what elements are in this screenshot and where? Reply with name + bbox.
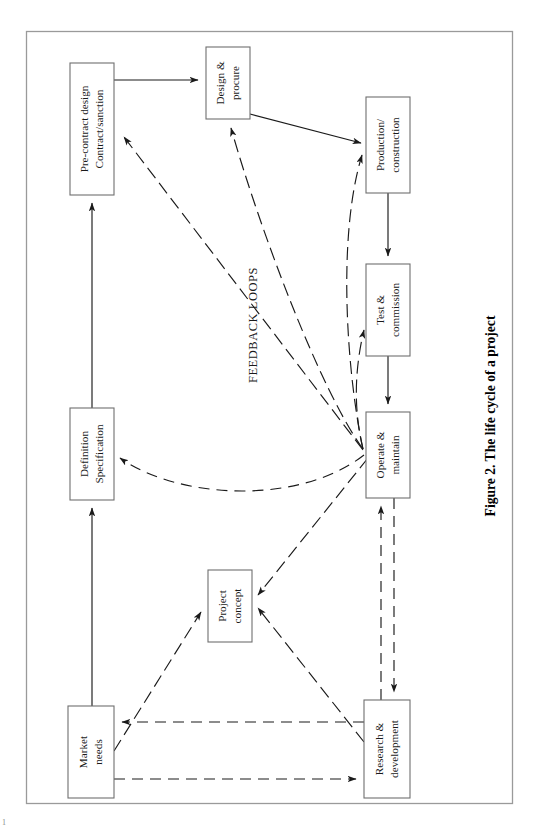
node-design-procure-line2: procure bbox=[229, 66, 241, 100]
node-production-construction[interactable]: Production/ construction bbox=[366, 97, 410, 193]
node-definition-specification-line2: Specification bbox=[93, 424, 105, 483]
edge-design-to-production bbox=[250, 114, 361, 143]
node-definition-specification-line1: Definition bbox=[78, 431, 90, 477]
edge-feedback-operate-to-production bbox=[347, 155, 363, 449]
node-market-needs-line2: needs bbox=[92, 739, 104, 764]
node-operate-maintain[interactable]: Operate & maintain bbox=[366, 412, 410, 498]
figure-container: Pre-contract design Contract/sanction De… bbox=[0, 0, 533, 829]
feedback-loops-label: FEEDBACK LOOPS bbox=[246, 267, 260, 383]
node-production-construction-line2: construction bbox=[389, 117, 401, 173]
node-design-procure[interactable]: Design & procure bbox=[206, 47, 250, 119]
edge-market-to-concept bbox=[114, 612, 201, 751]
node-pre-contract-line1: Pre-contract design bbox=[78, 85, 90, 172]
node-research-development-line1: Research & bbox=[373, 722, 385, 775]
life-cycle-diagram: Pre-contract design Contract/sanction De… bbox=[0, 0, 533, 829]
node-test-commission-line1: Test & bbox=[374, 295, 386, 325]
edge-feedback-operate-to-precontract bbox=[124, 137, 363, 450]
node-pre-contract[interactable]: Pre-contract design Contract/sanction bbox=[70, 63, 114, 195]
node-market-needs-line1: Market bbox=[77, 735, 89, 768]
node-research-development[interactable]: Research & development bbox=[364, 700, 410, 798]
node-design-procure-line1: Design & bbox=[214, 61, 226, 104]
node-test-commission[interactable]: Test & commission bbox=[366, 264, 410, 356]
node-project-concept-line2: concept bbox=[231, 588, 243, 624]
node-project-concept-line1: Project bbox=[216, 589, 228, 622]
node-pre-contract-line2: Contract/sanction bbox=[93, 89, 105, 168]
edge-feedback-operate-to-test bbox=[356, 330, 364, 449]
node-operate-maintain-line2: maintain bbox=[389, 435, 401, 475]
edge-operate-to-concept bbox=[258, 458, 368, 595]
node-production-construction-line1: Production/ bbox=[374, 118, 386, 171]
node-market-needs[interactable]: Market needs bbox=[68, 706, 114, 798]
node-project-concept[interactable]: Project concept bbox=[208, 570, 252, 642]
figure-caption: Figure 2. The life cycle of a project bbox=[483, 315, 498, 516]
node-research-development-line2: development bbox=[388, 719, 400, 778]
edge-layer bbox=[92, 80, 394, 779]
node-operate-maintain-line1: Operate & bbox=[374, 431, 386, 478]
node-test-commission-line2: commission bbox=[389, 283, 401, 337]
page-corner-mark: 1 bbox=[2, 818, 6, 827]
node-definition-specification[interactable]: Definition Specification bbox=[70, 408, 114, 500]
edge-feedback-operate-to-definition bbox=[120, 455, 364, 491]
